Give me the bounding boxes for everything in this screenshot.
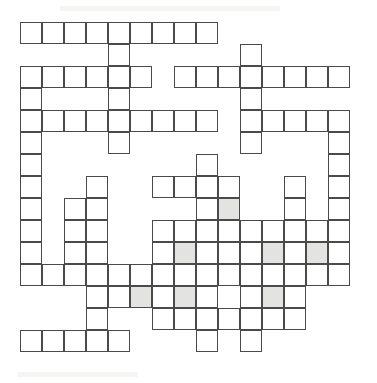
crossword-cell[interactable]	[240, 308, 262, 330]
crossword-cell[interactable]	[42, 330, 64, 352]
crossword-cell[interactable]	[64, 198, 86, 220]
crossword-cell[interactable]	[218, 176, 240, 198]
crossword-cell[interactable]	[240, 330, 262, 352]
crossword-cell[interactable]	[240, 110, 262, 132]
crossword-cell[interactable]	[284, 66, 306, 88]
crossword-cell[interactable]	[86, 330, 108, 352]
crossword-cell[interactable]	[86, 22, 108, 44]
crossword-cell[interactable]	[108, 88, 130, 110]
crossword-cell[interactable]	[64, 110, 86, 132]
crossword-cell[interactable]	[196, 22, 218, 44]
crossword-cell[interactable]	[196, 110, 218, 132]
crossword-cell[interactable]	[108, 330, 130, 352]
crossword-cell[interactable]	[218, 220, 240, 242]
crossword-cell[interactable]	[108, 22, 130, 44]
crossword-cell[interactable]	[152, 264, 174, 286]
crossword-cell[interactable]	[130, 66, 152, 88]
crossword-cell-shaded[interactable]	[174, 242, 196, 264]
crossword-cell[interactable]	[328, 198, 350, 220]
crossword-cell[interactable]	[262, 66, 284, 88]
crossword-cell[interactable]	[20, 154, 42, 176]
crossword-cell[interactable]	[152, 110, 174, 132]
crossword-cell[interactable]	[196, 264, 218, 286]
crossword-cell[interactable]	[240, 220, 262, 242]
crossword-cell[interactable]	[152, 220, 174, 242]
crossword-cell[interactable]	[20, 242, 42, 264]
crossword-cell[interactable]	[284, 176, 306, 198]
crossword-cell[interactable]	[196, 176, 218, 198]
crossword-cell[interactable]	[306, 110, 328, 132]
crossword-cell[interactable]	[328, 154, 350, 176]
crossword-cell[interactable]	[196, 330, 218, 352]
crossword-cell-shaded[interactable]	[306, 242, 328, 264]
crossword-cell[interactable]	[86, 242, 108, 264]
crossword-cell[interactable]	[284, 264, 306, 286]
crossword-cell[interactable]	[64, 264, 86, 286]
crossword-cell[interactable]	[64, 242, 86, 264]
crossword-cell-shaded[interactable]	[262, 286, 284, 308]
crossword-cell[interactable]	[240, 132, 262, 154]
crossword-cell-shaded[interactable]	[174, 286, 196, 308]
crossword-cell[interactable]	[152, 176, 174, 198]
crossword-cell[interactable]	[130, 110, 152, 132]
crossword-cell[interactable]	[64, 220, 86, 242]
crossword-cell[interactable]	[42, 110, 64, 132]
crossword-cell[interactable]	[196, 154, 218, 176]
crossword-cell[interactable]	[86, 176, 108, 198]
crossword-cell[interactable]	[108, 110, 130, 132]
crossword-cell[interactable]	[284, 308, 306, 330]
crossword-cell[interactable]	[306, 220, 328, 242]
crossword-cell-shaded[interactable]	[262, 242, 284, 264]
crossword-cell[interactable]	[108, 132, 130, 154]
crossword-cell[interactable]	[42, 22, 64, 44]
crossword-cell[interactable]	[64, 22, 86, 44]
crossword-cell[interactable]	[240, 66, 262, 88]
crossword-cell[interactable]	[306, 264, 328, 286]
crossword-cell[interactable]	[86, 198, 108, 220]
crossword-cell[interactable]	[108, 286, 130, 308]
crossword-cell[interactable]	[218, 264, 240, 286]
crossword-cell[interactable]	[174, 176, 196, 198]
crossword-cell[interactable]	[108, 44, 130, 66]
crossword-cell[interactable]	[328, 110, 350, 132]
crossword-cell[interactable]	[152, 308, 174, 330]
crossword-cell[interactable]	[262, 264, 284, 286]
crossword-cell[interactable]	[196, 286, 218, 308]
crossword-cell[interactable]	[174, 110, 196, 132]
crossword-cell[interactable]	[20, 264, 42, 286]
crossword-cell[interactable]	[20, 220, 42, 242]
crossword-cell[interactable]	[196, 66, 218, 88]
crossword-cell[interactable]	[328, 176, 350, 198]
crossword-cell[interactable]	[328, 264, 350, 286]
crossword-cell[interactable]	[64, 66, 86, 88]
crossword-cell[interactable]	[20, 66, 42, 88]
crossword-cell[interactable]	[284, 110, 306, 132]
crossword-cell[interactable]	[306, 66, 328, 88]
crossword-cell[interactable]	[240, 44, 262, 66]
crossword-cell[interactable]	[20, 132, 42, 154]
crossword-cell[interactable]	[20, 22, 42, 44]
crossword-cell[interactable]	[108, 66, 130, 88]
crossword-cell[interactable]	[284, 242, 306, 264]
crossword-cell[interactable]	[20, 330, 42, 352]
crossword-cell[interactable]	[174, 220, 196, 242]
crossword-cell[interactable]	[328, 132, 350, 154]
crossword-cell[interactable]	[130, 264, 152, 286]
crossword-cell[interactable]	[262, 110, 284, 132]
crossword-cell[interactable]	[64, 330, 86, 352]
crossword-cell[interactable]	[42, 66, 64, 88]
crossword-cell[interactable]	[240, 88, 262, 110]
crossword-cell[interactable]	[174, 264, 196, 286]
crossword-cell[interactable]	[240, 242, 262, 264]
crossword-cell[interactable]	[20, 176, 42, 198]
crossword-cell[interactable]	[86, 220, 108, 242]
crossword-cell[interactable]	[20, 198, 42, 220]
crossword-cell[interactable]	[174, 22, 196, 44]
crossword-cell-shaded[interactable]	[130, 286, 152, 308]
crossword-cell[interactable]	[20, 110, 42, 132]
crossword-cell[interactable]	[284, 220, 306, 242]
crossword-cell[interactable]	[284, 198, 306, 220]
crossword-cell[interactable]	[174, 308, 196, 330]
crossword-cell[interactable]	[284, 286, 306, 308]
crossword-cell[interactable]	[152, 242, 174, 264]
